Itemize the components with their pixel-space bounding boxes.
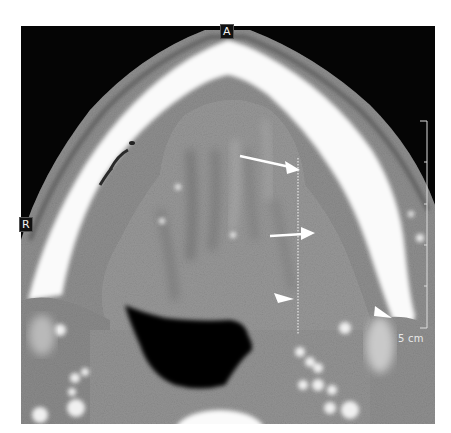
orientation-label-right: R: [19, 217, 33, 232]
ct-anatomy: [21, 26, 435, 424]
ct-scan-image: [21, 26, 435, 424]
orientation-label-anterior: A: [220, 24, 234, 39]
scale-bar-label: 5 cm: [398, 333, 424, 344]
